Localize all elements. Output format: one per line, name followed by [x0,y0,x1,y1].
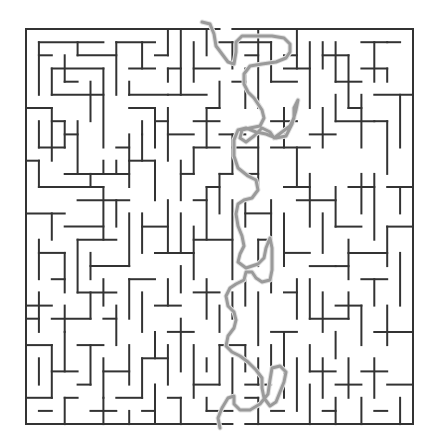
maze-board [0,0,437,447]
maze-puzzle [0,0,437,447]
maze-walls [26,29,413,424]
